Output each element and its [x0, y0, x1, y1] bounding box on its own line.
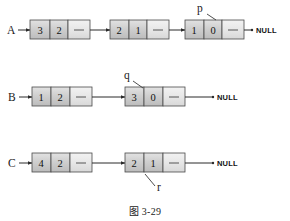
pointer-label-q: q: [124, 69, 130, 82]
node-A-1[interactable]: 3 2: [30, 20, 90, 39]
node-value: 2: [116, 25, 121, 36]
pointer-leader-line-p: [207, 14, 216, 20]
null-label-C: NULL: [217, 159, 238, 168]
node-value: 3: [131, 92, 136, 103]
node-value: 3: [37, 25, 42, 36]
node-C-1[interactable]: 4 2: [32, 153, 92, 172]
node-value: 1: [38, 92, 43, 103]
node-value: 2: [57, 92, 62, 103]
node-value: 4: [38, 158, 44, 169]
list-head-label-C: C: [8, 157, 16, 169]
null-label-B: NULL: [217, 93, 238, 102]
pointer-label-p: p: [197, 2, 203, 15]
node-B-2[interactable]: 3 0: [125, 87, 185, 106]
node-A-2[interactable]: 2 1: [110, 20, 169, 39]
list-row-C: C 4 2 2 1 r: [8, 153, 238, 193]
pointer-label-r: r: [157, 181, 161, 193]
node-C-2[interactable]: 2 1: [125, 153, 185, 172]
pointer-leader-line-r: [145, 174, 155, 186]
linked-list-figure: A 3 2 2 1: [0, 0, 290, 221]
node-value: 0: [210, 25, 215, 36]
list-row-A: A 3 2 2 1: [7, 2, 277, 39]
null-label-A: NULL: [256, 26, 277, 35]
figure-caption: 图 3-29: [0, 203, 290, 218]
node-value: 2: [56, 25, 61, 36]
node-value: 1: [191, 25, 196, 36]
node-B-1[interactable]: 1 2: [32, 87, 92, 106]
node-value: 2: [131, 158, 136, 169]
list-head-label-B: B: [8, 91, 16, 103]
node-value: 1: [135, 25, 140, 36]
list-head-label-A: A: [7, 24, 16, 36]
node-value: 2: [57, 158, 62, 169]
linked-list-diagram: A 3 2 2 1: [0, 0, 290, 221]
list-row-B: B 1 2 3 0 q: [8, 69, 238, 106]
node-value: 0: [150, 92, 155, 103]
node-value: 1: [150, 158, 155, 169]
node-A-3[interactable]: 1 0: [185, 20, 244, 39]
